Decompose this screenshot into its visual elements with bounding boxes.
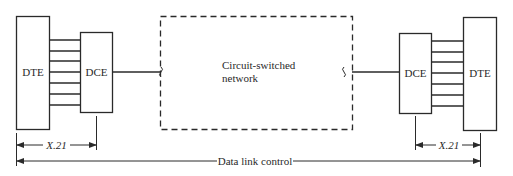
right-dte-label: DTE bbox=[469, 67, 491, 79]
left-x21-label: X.21 bbox=[45, 139, 66, 151]
data-link-control-span: Data link control bbox=[17, 155, 480, 167]
left-dte-label: DTE bbox=[22, 66, 44, 78]
right-x21-dimension: X.21 bbox=[416, 139, 480, 151]
left-network-link bbox=[113, 67, 163, 77]
right-interchange-circuits bbox=[431, 41, 463, 106]
right-dte-box: DTE bbox=[464, 18, 497, 131]
right-x21-label: X.21 bbox=[438, 139, 459, 151]
circuit-switched-network: Circuit-switched network bbox=[161, 17, 353, 130]
left-dte-box: DTE bbox=[17, 17, 50, 130]
network-label-line2: network bbox=[222, 72, 259, 84]
right-network-link bbox=[343, 67, 400, 77]
right-dce-box: DCE bbox=[400, 34, 432, 114]
left-dce-box: DCE bbox=[81, 33, 113, 113]
left-x21-dimension: X.21 bbox=[17, 139, 96, 151]
x21-diagram: DTE DCE Circuit-switched network DCE bbox=[0, 0, 513, 176]
left-interchange-circuits bbox=[49, 40, 80, 105]
data-link-control-label: Data link control bbox=[218, 155, 293, 167]
right-dce-label: DCE bbox=[405, 67, 427, 79]
left-dce-label: DCE bbox=[86, 66, 108, 78]
network-label-line1: Circuit-switched bbox=[222, 59, 296, 71]
